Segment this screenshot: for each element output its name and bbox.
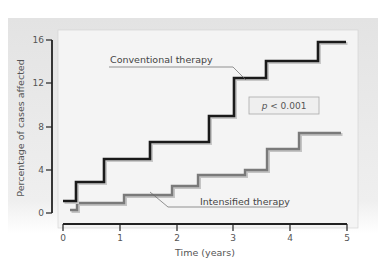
p-value-box: p < 0.001: [249, 97, 319, 114]
x-tick-2: 2: [174, 233, 180, 243]
y-tick-0: 0: [38, 208, 44, 218]
x-axis-title: Time (years): [174, 247, 235, 258]
p-value-text: p < 0.001: [261, 101, 307, 111]
chart: 0 4 8 12 16 Percentage of cases affected…: [0, 0, 387, 272]
x-tick-3: 3: [230, 233, 236, 243]
y-axis-title: Percentage of cases affected: [15, 59, 26, 196]
x-tick-5: 5: [344, 233, 350, 243]
y-tick-4: 4: [38, 165, 44, 175]
x-tick-1: 1: [117, 233, 123, 243]
y-tick-12: 12: [33, 78, 44, 88]
y-tick-16: 16: [33, 35, 45, 45]
x-tick-0: 0: [60, 233, 66, 243]
conventional-label: Conventional therapy: [110, 54, 213, 65]
intensified-label: Intensified therapy: [200, 196, 290, 207]
y-tick-8: 8: [38, 122, 44, 132]
x-tick-4: 4: [287, 233, 293, 243]
